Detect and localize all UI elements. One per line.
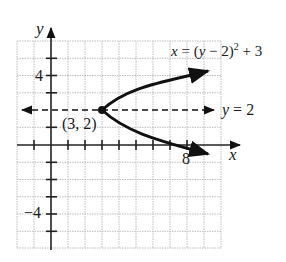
y-tick-label-neg4: −4 [24, 204, 41, 221]
y-axis-label: y [34, 19, 44, 38]
vertex-label: (3, 2) [62, 115, 97, 133]
axis-of-symmetry-label: y = 2 [220, 101, 254, 119]
parabola-graph: y x 4 −4 8 (3, 2) x = (y − 2)2 + 3 y = 2 [0, 0, 286, 262]
parabola-curve [102, 71, 208, 154]
x-tick-label-8: 8 [182, 150, 190, 167]
x-axis-label: x [228, 145, 237, 164]
axes [17, 28, 240, 250]
curve-equation-label: x = (y − 2)2 + 3 [170, 41, 262, 60]
y-tick-label-4: 4 [35, 67, 43, 84]
vertex-point [98, 106, 106, 114]
